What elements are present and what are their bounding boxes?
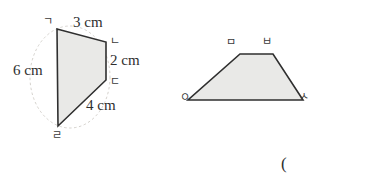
vertex-label-ieung: ㅇ [180, 92, 190, 103]
dimension-label-4cm: 4 cm [86, 98, 116, 113]
vertex-label-nieun: ㄴ [110, 36, 120, 47]
dimension-label-6cm: 6 cm [13, 63, 43, 78]
vertex-label-bieup: ㅂ [262, 36, 272, 47]
geometry-canvas [0, 0, 386, 188]
dimension-label-2cm: 2 cm [110, 53, 140, 68]
vertex-label-giyeok: ㄱ [43, 16, 53, 27]
vertex-label-digeut: ㄷ [110, 76, 120, 87]
worksheet-page: 3 cm 2 cm 4 cm 6 cm ㄱ ㄴ ㄷ ㄹ ㅁ ㅂ ㅇ ㅅ ( [0, 0, 386, 188]
vertex-label-mieum: ㅁ [226, 37, 236, 48]
dimension-label-3cm: 3 cm [73, 15, 103, 30]
vertex-label-siot: ㅅ [299, 91, 309, 102]
right-trapezoid-shape [188, 54, 303, 100]
vertex-label-rieul: ㄹ [52, 130, 62, 141]
answer-parenthesis: ( [281, 155, 287, 172]
